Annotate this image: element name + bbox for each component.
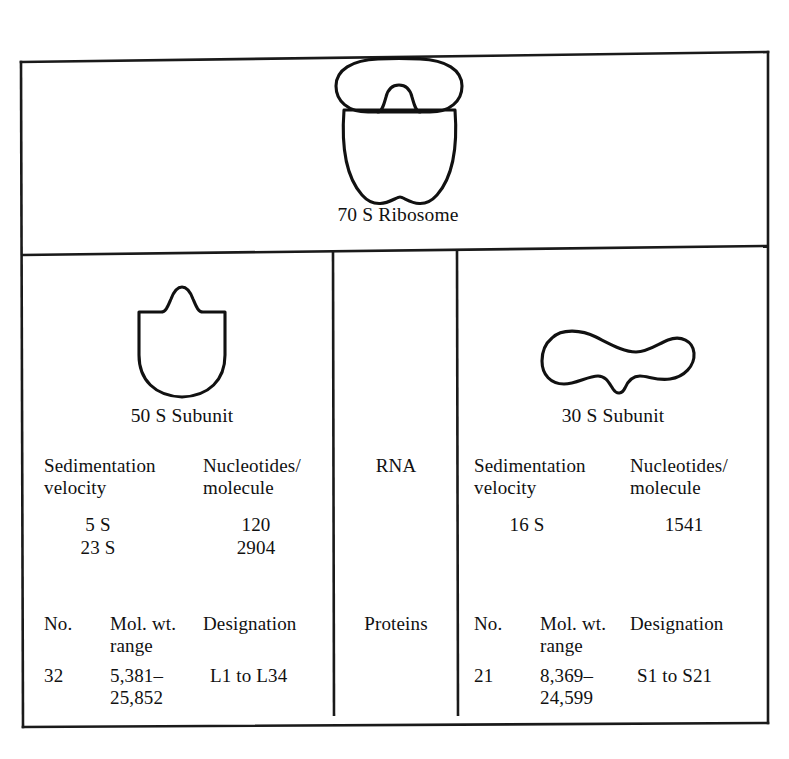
value-50s-protein-designation: L1 to L34 <box>210 665 287 687</box>
value-50s-rna-nuc-2: 2904 <box>237 537 276 559</box>
value-50s-protein-molwt-line2: 25,852 <box>110 687 163 709</box>
header-50s-molwt-line1: Mol. wt. <box>110 613 176 635</box>
ribosome-figure: 70 S Ribosome 50 S Subunit 30 S Subunit … <box>0 0 789 759</box>
figure-text-layer: 70 S Ribosome 50 S Subunit 30 S Subunit … <box>0 0 789 759</box>
header-50s-nucleotides-line1: Nucleotides/ <box>203 455 301 477</box>
row-label-rna: RNA <box>376 455 417 477</box>
header-30s-sedimentation-line2: velocity <box>474 477 536 499</box>
header-30s-nucleotides-line2: molecule <box>630 477 701 499</box>
caption-30s-subunit: 30 S Subunit <box>562 404 665 427</box>
value-30s-rna-nuc-1: 1541 <box>665 514 704 536</box>
value-30s-rna-sed-1: 16 S <box>510 514 545 536</box>
header-30s-molwt-line1: Mol. wt. <box>540 613 606 635</box>
header-50s-nucleotides-line2: molecule <box>203 477 274 499</box>
value-30s-protein-designation: S1 to S21 <box>637 665 712 687</box>
value-30s-protein-no: 21 <box>474 665 493 687</box>
value-50s-rna-sed-1: 5 S <box>85 514 110 536</box>
header-30s-nucleotides-line1: Nucleotides/ <box>630 455 728 477</box>
value-50s-rna-sed-2: 23 S <box>81 537 116 559</box>
header-30s-no: No. <box>474 613 502 635</box>
value-30s-protein-molwt-line1: 8,369– <box>540 665 593 687</box>
header-50s-no: No. <box>44 613 72 635</box>
row-label-proteins: Proteins <box>364 613 427 635</box>
caption-50s-subunit: 50 S Subunit <box>131 404 234 427</box>
value-50s-protein-no: 32 <box>44 665 63 687</box>
caption-70s-ribosome: 70 S Ribosome <box>337 203 458 226</box>
value-30s-protein-molwt-line2: 24,599 <box>540 687 593 709</box>
header-30s-designation: Designation <box>630 613 723 635</box>
header-30s-molwt-line2: range <box>540 635 583 657</box>
header-30s-sedimentation-line1: Sedimentation <box>474 455 586 477</box>
value-50s-protein-molwt-line1: 5,381– <box>110 665 163 687</box>
header-50s-designation: Designation <box>203 613 296 635</box>
value-50s-rna-nuc-1: 120 <box>242 514 271 536</box>
header-50s-molwt-line2: range <box>110 635 153 657</box>
header-50s-sedimentation-line2: velocity <box>44 477 106 499</box>
header-50s-sedimentation-line1: Sedimentation <box>44 455 156 477</box>
